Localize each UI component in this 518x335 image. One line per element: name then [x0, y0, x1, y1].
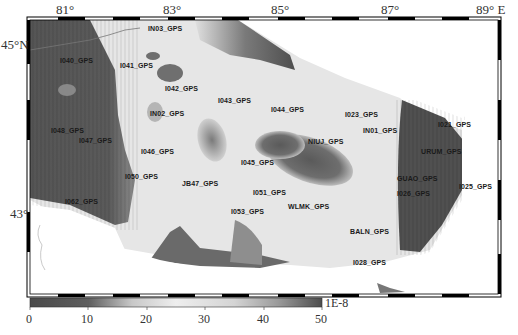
contour-field — [30, 20, 498, 294]
longitude-tick-87: 87° — [381, 3, 399, 16]
station-label: IN01_GPS — [363, 127, 397, 134]
station-label: GUAO_GPS — [397, 175, 437, 182]
station-label: URUM_GPS — [421, 148, 461, 155]
map-graphic — [0, 0, 518, 335]
station-label: IN02_GPS — [150, 110, 184, 117]
station-label: JB47_GPS — [182, 180, 218, 187]
station-label: I021_GPS — [438, 121, 471, 128]
station-label: NIUJ_GPS — [308, 138, 343, 145]
colorbar-tick-50: 50 — [315, 313, 327, 325]
station-label: I047_GPS — [79, 137, 112, 144]
colorbar-tick-40: 40 — [257, 313, 269, 325]
station-label: I053_GPS — [231, 208, 264, 215]
longitude-tick-83: 83° — [163, 3, 181, 16]
station-label: I048_GPS — [51, 127, 84, 134]
colorbar — [30, 298, 322, 310]
station-label: I062_GPS — [65, 198, 98, 205]
station-label: I050_GPS — [125, 173, 158, 180]
latitude-tick-43: 43° — [10, 207, 28, 220]
station-label: I044_GPS — [271, 106, 304, 113]
station-label: I026_GPS — [397, 190, 430, 197]
colorbar-unit: 1E-8 — [325, 297, 348, 309]
station-label: BALN_GPS — [350, 228, 389, 235]
longitude-tick-89: 89° E — [476, 3, 505, 16]
station-label: I028_GPS — [353, 259, 386, 266]
station-label: I045_GPS — [241, 159, 274, 166]
colorbar-tick-0: 0 — [26, 313, 32, 325]
colorbar-tick-30: 30 — [198, 313, 210, 325]
strain-rate-map: 81° 83° 85° 87° 89° E 45°N 43° IN03_GPS … — [0, 0, 518, 335]
station-label: IN03_GPS — [148, 25, 182, 32]
station-label: I041_GPS — [120, 62, 153, 69]
latitude-tick-45: 45°N — [1, 38, 29, 51]
station-label: I051_GPS — [253, 189, 286, 196]
station-label: I025_GPS — [459, 183, 492, 190]
colorbar-tick-10: 10 — [81, 313, 93, 325]
station-label: I043_GPS — [218, 97, 251, 104]
station-label: I042_GPS — [165, 85, 198, 92]
station-label: I023_GPS — [345, 111, 378, 118]
station-label: I046_GPS — [141, 148, 174, 155]
station-label: WLMK_GPS — [288, 203, 329, 210]
longitude-tick-85: 85° — [271, 3, 289, 16]
colorbar-tick-20: 20 — [140, 313, 152, 325]
longitude-tick-81: 81° — [56, 3, 74, 16]
station-label: I040_GPS — [60, 57, 93, 64]
